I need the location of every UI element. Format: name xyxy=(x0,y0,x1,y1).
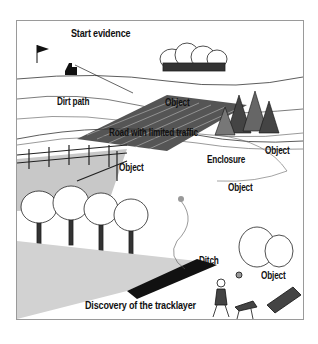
victim-figure xyxy=(267,287,301,313)
label-enclosure: Enclosure xyxy=(207,155,245,165)
label-object-field: Object xyxy=(165,98,190,108)
label-object-bush: Object xyxy=(261,271,286,281)
flag-icon xyxy=(37,45,49,63)
label-start-evidence: Start evidence xyxy=(71,28,130,39)
label-object-fence: Object xyxy=(119,163,144,173)
label-road: Road with limited traffic xyxy=(109,128,198,138)
label-object-center: Object xyxy=(228,183,253,193)
illustration-frame: Start evidence Dirt path Object Road wit… xyxy=(16,20,304,320)
label-dirt-path: Dirt path xyxy=(57,97,89,107)
bush-cluster xyxy=(239,227,293,267)
tree-cluster-top xyxy=(160,43,227,71)
horizon-line xyxy=(17,75,303,85)
marker-ball xyxy=(178,196,184,202)
walker-with-dog xyxy=(213,272,257,319)
label-object-right: Object xyxy=(265,146,290,156)
label-ditch: Ditch xyxy=(199,256,219,266)
label-discovery: Discovery of the tracklayer xyxy=(85,300,196,311)
